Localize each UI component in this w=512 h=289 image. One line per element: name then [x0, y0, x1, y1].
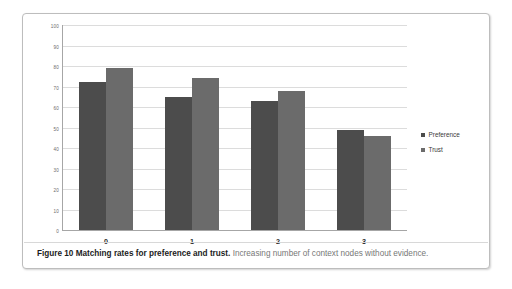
y-axis-tick-label: 20 — [53, 188, 59, 193]
y-axis-tick-label: 80 — [53, 65, 59, 70]
caption-title: Figure 10 Matching rates for preference … — [37, 249, 230, 258]
bar-groups: 0123 — [63, 25, 407, 230]
legend-item-preference[interactable]: Preference — [421, 131, 487, 138]
y-axis-tick-label: 50 — [53, 126, 59, 131]
y-axis-tick-label: 100 — [51, 24, 59, 29]
figure-caption: Figure 10 Matching rates for preference … — [37, 248, 479, 260]
legend-label: Preference — [429, 131, 460, 138]
legend-swatch-icon — [421, 148, 425, 152]
caption-description: Increasing number of context nodes witho… — [233, 249, 429, 258]
y-axis-tick-label: 70 — [53, 85, 59, 90]
y-axis-tick-label: 0 — [56, 229, 59, 234]
bar-trust-1[interactable] — [192, 78, 219, 230]
y-axis-tick-label: 10 — [53, 208, 59, 213]
caption-divider — [24, 242, 488, 243]
figure-container: 1009080706050403020100 0123 PreferenceTr… — [22, 13, 490, 269]
plot-area: 1009080706050403020100 0123 — [62, 25, 407, 231]
bar-preference-1[interactable] — [165, 97, 192, 230]
bar-chart: 1009080706050403020100 0123 PreferenceTr… — [23, 14, 491, 236]
bar-trust-3[interactable] — [364, 136, 391, 230]
legend-label: Trust — [429, 146, 443, 153]
bar-preference-2[interactable] — [251, 101, 278, 230]
bar-group: 0 — [63, 25, 149, 230]
bar-preference-0[interactable] — [79, 82, 106, 230]
y-axis-tick-label: 90 — [53, 44, 59, 49]
y-axis-tick-label: 30 — [53, 167, 59, 172]
bar-group: 3 — [321, 25, 407, 230]
legend-swatch-icon — [421, 133, 425, 137]
bar-trust-2[interactable] — [278, 91, 305, 230]
y-axis-tick-label: 40 — [53, 147, 59, 152]
bar-trust-0[interactable] — [106, 68, 133, 230]
legend-item-trust[interactable]: Trust — [421, 146, 487, 153]
chart-legend: PreferenceTrust — [421, 131, 487, 161]
y-axis-tick-label: 60 — [53, 106, 59, 111]
bar-preference-3[interactable] — [337, 130, 364, 230]
bar-group: 2 — [235, 25, 321, 230]
bar-group: 1 — [149, 25, 235, 230]
gridline: 0 — [63, 230, 407, 231]
